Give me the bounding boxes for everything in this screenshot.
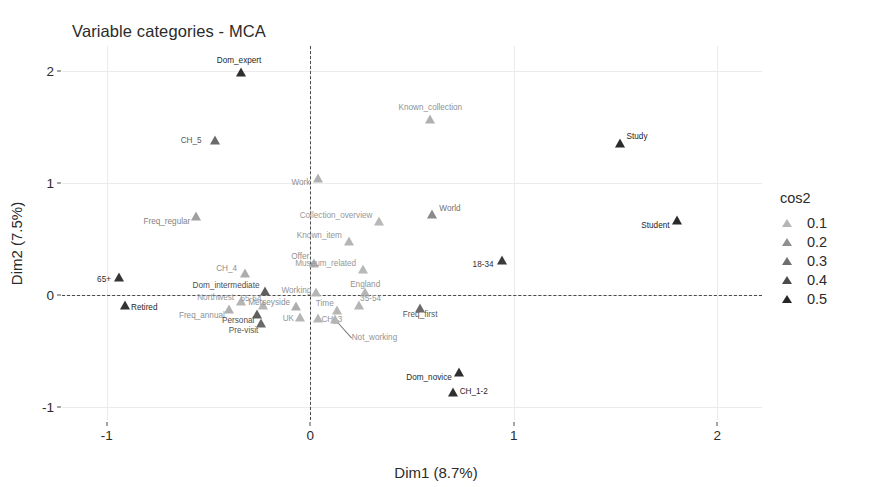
y-tick-label: 2 [28,63,54,78]
data-point-label: Freq_annual [179,312,225,320]
triangle-marker-icon [672,215,682,224]
x-tick-label: 1 [510,428,518,443]
data-point-label: Known_collection [398,104,462,112]
triangle-marker-icon [425,114,435,123]
data-point-label: 35-54 [360,295,381,303]
triangle-marker-icon [427,209,437,218]
data-point-label: Study [627,133,648,141]
data-point[interactable] [114,272,124,281]
data-point-label: CH_5 [181,137,202,145]
legend-item-label: 0.4 [807,272,827,288]
data-point[interactable] [240,269,250,278]
data-point[interactable] [448,388,458,397]
data-point-label: Pre-visit [229,327,259,335]
gridline-vertical [107,46,108,420]
gridline-vertical [514,46,515,420]
legend: cos2 0.10.20.30.40.5 [776,190,868,308]
data-point[interactable] [374,216,384,225]
legend-item[interactable]: 0.4 [776,270,868,289]
data-point[interactable] [344,236,354,245]
y-tick-mark [57,294,61,295]
mca-scatter-plot: Variable categories - MCA Dom_expertKnow… [0,0,872,487]
triangle-marker-icon [295,312,305,321]
data-point-label: Retired [131,304,157,312]
triangle-marker-icon [344,236,354,245]
data-point[interactable] [313,174,323,183]
legend-item-label: 0.2 [807,234,827,250]
data-point[interactable] [191,212,201,221]
gridline-vertical [717,46,718,420]
triangle-marker-icon [782,238,792,246]
data-point[interactable] [311,288,321,297]
triangle-marker-icon [240,269,250,278]
data-point-label: Personal [222,317,254,325]
legend-swatch [776,219,798,227]
data-point-label: UK [283,315,294,323]
triangle-marker-icon [782,295,792,303]
data-point-label: Time [316,300,334,308]
legend-item[interactable]: 0.2 [776,232,868,251]
data-point[interactable] [672,215,682,224]
legend-item-label: 0.5 [807,291,827,307]
triangle-marker-icon [114,272,124,281]
data-point[interactable] [330,315,340,324]
triangle-marker-icon [454,367,464,376]
y-tick-label: -1 [28,399,54,414]
triangle-marker-icon [311,288,321,297]
data-point-label: Student [641,222,669,230]
legend-item[interactable]: 0.1 [776,213,868,232]
x-tick-label: 0 [306,428,314,443]
legend-item[interactable]: 0.5 [776,289,868,308]
data-point[interactable] [260,287,270,296]
x-tick-label: -1 [101,428,113,443]
data-point-label: 65+ [97,276,111,284]
legend-item-label: 0.3 [807,253,827,269]
legend-item[interactable]: 0.3 [776,251,868,270]
triangle-marker-icon [497,255,507,264]
triangle-marker-icon [330,315,340,324]
data-point[interactable] [427,209,437,218]
y-tick-mark [57,70,61,71]
chart-title: Variable categories - MCA [72,22,266,41]
data-point[interactable] [425,114,435,123]
triangle-marker-icon [615,139,625,148]
data-point-label: CH_4 [216,265,237,273]
triangle-marker-icon [210,136,220,145]
data-point-label: Work [291,179,310,187]
y-axis-title: Dim2 (7.5%) [6,0,28,487]
triangle-marker-icon [782,257,792,265]
y-tick-label: 1 [28,175,54,190]
legend-swatch [776,238,798,246]
gridline-horizontal [62,71,762,72]
x-tick-mark [717,422,718,426]
y-axis-title-text: Dim2 (7.5%) [9,202,26,285]
data-point-label: Working [281,287,311,295]
legend-title: cos2 [780,190,868,206]
data-point[interactable] [236,67,246,76]
gridline-horizontal [62,183,762,184]
y-tick-mark [57,182,61,183]
y-tick-label: 0 [28,287,54,302]
triangle-marker-icon [191,212,201,221]
x-tick-mark [310,422,311,426]
triangle-marker-icon [120,300,130,309]
data-point[interactable] [224,305,234,314]
x-tick-label: 2 [713,428,721,443]
data-point[interactable] [358,264,368,273]
triangle-marker-icon [313,174,323,183]
data-point-label: Dom_intermediate [193,282,260,290]
data-point-label: Museum_related [295,260,356,268]
data-point[interactable] [120,300,130,309]
data-point[interactable] [615,139,625,148]
data-point[interactable] [295,312,305,321]
data-point[interactable] [497,255,507,264]
data-point[interactable] [210,136,220,145]
data-point-label: Freq_regular [143,218,190,226]
data-point-label: Dom_expert [217,57,262,65]
data-point[interactable] [454,367,464,376]
triangle-marker-icon [374,216,384,225]
x-tick-mark [513,422,514,426]
data-point[interactable] [291,301,301,310]
y-tick-mark [57,406,61,407]
triangle-marker-icon [782,276,792,284]
